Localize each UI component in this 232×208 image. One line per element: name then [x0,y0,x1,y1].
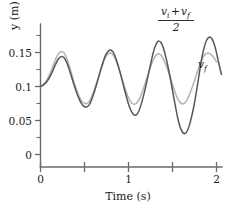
avg-velocity-numerator-plus: + [171,5,180,17]
series-avg-velocity-curve [41,37,222,134]
x-tick-label-1: 1 [125,173,132,185]
axis-group [41,24,223,167]
y-tick-label-0p15: 0.15 [9,47,32,59]
chart-container: 0.15 0.1 0.05 0 0 1 2 y (m) Time (s) v i… [0,0,232,208]
x-axis-title: Time (s) [105,190,151,203]
y-tick-label-0p1: 0.1 [15,81,32,93]
series-vf-curve [41,51,217,104]
physics-oscillation-chart: 0.15 0.1 0.05 0 0 1 2 y (m) Time (s) v i… [0,0,232,208]
y-tick-label-0: 0 [25,149,32,161]
y-tick-label-0p05: 0.05 [9,115,32,127]
avg-velocity-numerator-vi-subscript: i [167,11,170,20]
x-tick-label-0: 0 [37,173,44,185]
x-tick-label-2: 2 [213,173,220,185]
avg-velocity-denominator: 2 [172,21,180,33]
vf-annotation-subscript: f [203,64,208,73]
avg-velocity-annotation: v i + v f 2 [158,5,194,33]
y-axis-title: y (m) [8,1,21,31]
avg-velocity-numerator-vf-subscript: f [186,11,191,20]
